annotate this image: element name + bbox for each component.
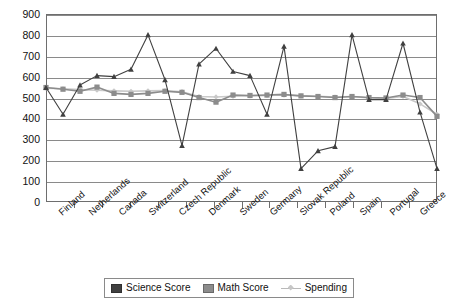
data-point-marker	[434, 166, 440, 171]
data-point-marker	[213, 100, 218, 105]
y-axis-tick-label: 700	[0, 51, 40, 62]
legend-item[interactable]: Science Score	[111, 283, 190, 293]
legend-line-swatch	[281, 284, 301, 293]
series-line	[46, 88, 437, 114]
data-point-marker	[179, 143, 185, 148]
data-point-marker	[94, 85, 99, 90]
data-point-marker	[332, 95, 337, 100]
series-line	[46, 87, 437, 116]
legend-item[interactable]: Spending	[281, 283, 347, 293]
legend-label: Science Score	[126, 283, 190, 293]
data-point-marker	[162, 77, 168, 82]
data-point-marker	[247, 93, 252, 98]
x-axis-labels: FinlandNetherlandsCanadaSwitzerlandCzech…	[0, 202, 455, 272]
legend-label: Spending	[305, 283, 347, 293]
chart-container: 9008007006005004003002001000 FinlandNeth…	[0, 0, 455, 307]
legend-color-swatch	[111, 284, 122, 293]
y-axis-tick-label: 800	[0, 30, 40, 41]
data-point-marker	[298, 93, 303, 98]
series-science-score	[43, 32, 440, 171]
data-point-marker	[230, 92, 235, 97]
y-axis-tick-label: 600	[0, 72, 40, 83]
y-axis-tick-label: 500	[0, 93, 40, 104]
data-point-marker	[417, 95, 422, 100]
data-point-marker	[196, 95, 201, 100]
data-point-marker	[128, 67, 134, 72]
data-point-marker	[400, 92, 405, 97]
legend-item[interactable]: Math Score	[203, 283, 269, 293]
data-point-marker	[349, 32, 355, 37]
series-math-score	[43, 85, 439, 119]
y-axis-tick-label: 900	[0, 9, 40, 20]
data-point-marker	[264, 111, 270, 116]
y-axis-tick-label: 300	[0, 134, 40, 145]
legend-color-swatch	[203, 284, 214, 293]
data-point-marker	[281, 44, 287, 49]
data-point-marker	[145, 32, 151, 37]
chart-legend: Science ScoreMath ScoreSpending	[104, 278, 354, 298]
data-point-marker	[434, 114, 439, 119]
data-point-marker	[264, 92, 269, 97]
y-axis-tick-label: 100	[0, 176, 40, 187]
y-axis-tick-label: 200	[0, 155, 40, 166]
data-point-marker	[162, 89, 167, 94]
data-point-marker	[60, 87, 65, 92]
data-point-marker	[281, 92, 286, 97]
series-line	[46, 35, 437, 169]
data-point-marker	[60, 111, 66, 116]
series-spending	[43, 86, 439, 117]
data-point-marker	[145, 91, 150, 96]
legend-label: Math Score	[218, 283, 269, 293]
data-point-marker	[315, 94, 320, 99]
data-point-marker	[213, 94, 218, 99]
data-point-marker	[128, 92, 133, 97]
data-point-marker	[349, 94, 354, 99]
data-point-marker	[77, 89, 82, 94]
data-point-marker	[77, 82, 83, 87]
data-point-marker	[400, 40, 406, 45]
y-axis-tick-label: 400	[0, 113, 40, 124]
series-layer	[46, 14, 437, 202]
data-point-marker	[417, 109, 423, 114]
data-point-marker	[213, 46, 219, 51]
data-point-marker	[332, 144, 338, 149]
data-point-marker	[111, 91, 116, 96]
data-point-marker	[179, 90, 184, 95]
